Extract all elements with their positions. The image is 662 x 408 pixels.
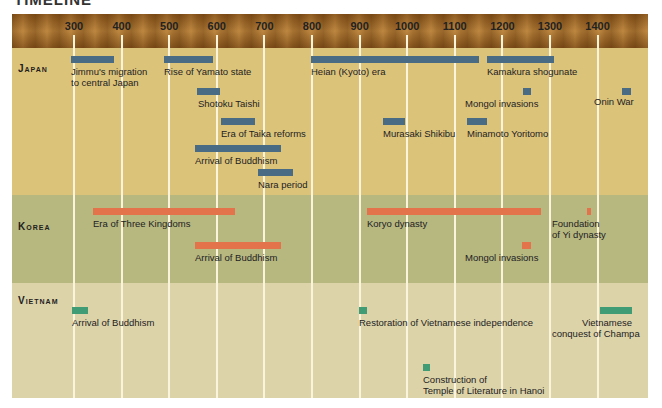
label-taika: Era of Taika reforms — [221, 128, 306, 139]
gridline-1200 — [501, 35, 503, 398]
gridline-1300 — [549, 35, 551, 398]
label-murasaki: Murasaki Shikibu — [383, 128, 455, 139]
label-buddhism-korea: Arrival of Buddhism — [195, 252, 277, 263]
label-champa: Vietnameseconquest of Champa — [552, 317, 632, 339]
bar-three-kingdoms — [93, 208, 235, 215]
tick-label-1000: 1000 — [395, 20, 419, 32]
bar-champa — [600, 307, 632, 314]
label-mongol-korea: Mongol invasions — [465, 252, 538, 263]
region-label-japan: Japan — [18, 63, 48, 74]
gridline-500 — [168, 35, 170, 398]
tick-label-300: 300 — [65, 20, 83, 32]
bar-mongol-japan — [523, 88, 531, 95]
tick-label-500: 500 — [160, 20, 178, 32]
bar-temple-literature — [423, 364, 430, 371]
label-kamakura: Kamakura shogunate — [487, 66, 577, 77]
label-restoration: Restoration of Vietnamese independence — [359, 317, 533, 328]
label-three-kingdoms: Era of Three Kingdoms — [93, 218, 191, 229]
gridline-1100 — [454, 35, 456, 398]
gridline-1000 — [406, 35, 408, 398]
gridline-800 — [311, 35, 313, 398]
label-yamato: Rise of Yamato state — [164, 66, 251, 77]
gridline-700 — [263, 35, 265, 398]
bar-onin-war — [622, 88, 631, 95]
label-yi-dynasty: Foundationof Yi dynasty — [552, 218, 594, 240]
bar-koryo — [367, 208, 541, 215]
tick-label-1400: 1400 — [585, 20, 609, 32]
bar-buddhism-korea — [195, 242, 281, 249]
bar-taika — [221, 118, 255, 125]
tick-label-1100: 1100 — [443, 20, 467, 32]
bar-buddhism-vietnam — [72, 307, 88, 314]
bar-restoration — [359, 307, 367, 314]
tick-label-600: 600 — [208, 20, 226, 32]
page-title: TIMELINE — [14, 0, 92, 8]
tick-label-1300: 1300 — [538, 20, 562, 32]
bar-nara — [258, 169, 293, 176]
timeline-chart: 3004005006007008009001000110012001300140… — [12, 14, 648, 398]
bar-mongol-korea — [522, 242, 531, 249]
bar-buddhism-japan — [195, 145, 281, 152]
bar-murasaki — [383, 118, 405, 125]
label-buddhism-vietnam: Arrival of Buddhism — [72, 317, 154, 328]
gridline-400 — [121, 35, 123, 398]
label-jimmu-migration: Jimmu's migrationto central Japan — [71, 66, 147, 88]
label-heian: Heian (Kyoto) era — [311, 66, 385, 77]
bar-yi-dynasty — [587, 208, 591, 215]
label-buddhism-japan: Arrival of Buddhism — [195, 155, 277, 166]
label-temple-literature: Construction ofTemple of Literature in H… — [423, 374, 544, 396]
bar-yamato — [164, 56, 213, 63]
label-onin-war: Onin War — [594, 96, 634, 107]
region-label-vietnam: Vietnam — [18, 295, 59, 306]
vietnam-band — [12, 283, 648, 398]
label-minamoto: Minamoto Yoritomo — [467, 128, 548, 139]
label-koryo: Koryo dynasty — [367, 218, 427, 229]
tick-label-400: 400 — [112, 20, 130, 32]
tick-label-900: 900 — [350, 20, 368, 32]
gridline-300 — [73, 35, 75, 398]
label-mongol-japan: Mongol invasions — [465, 98, 538, 109]
region-label-korea: Korea — [18, 221, 50, 232]
tick-label-800: 800 — [303, 20, 321, 32]
gridline-900 — [359, 35, 361, 398]
label-shotoku: Shotoku Taishi — [198, 98, 260, 109]
bar-kamakura — [487, 56, 554, 63]
bar-jimmu-migration — [71, 56, 114, 63]
gridline-1400 — [597, 35, 599, 398]
bar-minamoto — [467, 118, 487, 125]
tick-label-700: 700 — [255, 20, 273, 32]
tick-label-1200: 1200 — [490, 20, 514, 32]
bar-shotoku — [197, 88, 220, 95]
label-nara: Nara period — [258, 179, 308, 190]
bar-heian — [311, 56, 479, 63]
